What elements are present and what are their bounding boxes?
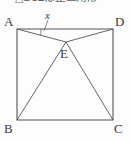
segment-e-b bbox=[17, 42, 66, 120]
segment-d-e bbox=[66, 29, 113, 42]
square-outline bbox=[17, 29, 113, 120]
segment-e-c bbox=[66, 42, 113, 120]
vertex-label-d: D bbox=[115, 15, 124, 28]
segment-a-e bbox=[17, 29, 66, 42]
angle-label-x: x bbox=[45, 10, 50, 21]
vertex-label-c: C bbox=[114, 122, 123, 135]
diagram-svg bbox=[0, 0, 131, 141]
vertex-label-a: A bbox=[4, 15, 13, 28]
vertex-label-e: E bbox=[60, 47, 68, 60]
vertex-label-b: B bbox=[4, 122, 13, 135]
geometry-figure-container: △BCEは正三角形 A D C B E x bbox=[0, 0, 131, 141]
